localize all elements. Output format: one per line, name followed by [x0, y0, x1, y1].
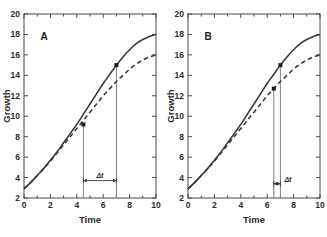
- y-tick-label: 6: [15, 152, 20, 162]
- x-tick-label: 4: [238, 200, 243, 210]
- x-tick-label: 10: [151, 200, 161, 210]
- y-tick-label: 8: [15, 132, 20, 142]
- data-point-marker: [114, 63, 118, 67]
- y-axis-title: Growth: [165, 89, 176, 122]
- x-tick-label: 4: [74, 200, 79, 210]
- delta-t-arrowhead: [274, 182, 277, 186]
- x-tick-label: 8: [127, 200, 132, 210]
- y-tick-label: 2: [179, 193, 184, 203]
- x-tick-label: 2: [212, 200, 217, 210]
- y-axis-title: Growth: [1, 89, 12, 122]
- x-tick-label: 10: [315, 200, 325, 210]
- y-tick-label: 18: [175, 29, 185, 39]
- y-tick-label: 20: [175, 9, 185, 19]
- data-point-marker: [81, 122, 85, 126]
- delta-t-label: Δt: [283, 176, 292, 183]
- growth-curve-figure: 24681012141618200246810TimeGrowthΔtA 246…: [0, 0, 327, 237]
- delta-t-arrowhead: [113, 179, 116, 183]
- delta-t-label: Δt: [95, 172, 104, 179]
- x-tick-label: 0: [22, 200, 27, 210]
- y-tick-label: 14: [11, 70, 21, 80]
- delta-t-arrowhead: [277, 182, 280, 186]
- data-point-marker: [272, 87, 276, 91]
- y-tick-label: 14: [175, 70, 185, 80]
- x-tick-label: 6: [101, 200, 106, 210]
- y-tick-label: 4: [179, 173, 184, 183]
- x-axis-title: Time: [79, 214, 101, 225]
- x-tick-label: 8: [291, 200, 296, 210]
- delta-t-arrowhead: [83, 179, 86, 183]
- panel-b: 24681012141618200246810TimeGrowthΔtB: [164, 0, 327, 237]
- panel-b-plot: 24681012141618200246810TimeGrowthΔtB: [164, 0, 327, 237]
- y-tick-label: 20: [11, 9, 21, 19]
- x-tick-label: 0: [186, 200, 191, 210]
- x-tick-label: 6: [265, 200, 270, 210]
- y-tick-label: 18: [11, 29, 21, 39]
- y-tick-label: 2: [15, 193, 20, 203]
- data-point-marker: [278, 63, 282, 67]
- x-tick-label: 2: [48, 200, 53, 210]
- y-tick-label: 16: [175, 50, 185, 60]
- x-axis-title: Time: [243, 214, 265, 225]
- y-tick-label: 8: [179, 132, 184, 142]
- y-tick-label: 16: [11, 50, 21, 60]
- panel-letter: A: [40, 31, 47, 42]
- panel-a: 24681012141618200246810TimeGrowthΔtA: [0, 0, 163, 237]
- y-tick-label: 6: [179, 152, 184, 162]
- y-tick-label: 4: [15, 173, 20, 183]
- panel-letter: B: [204, 31, 211, 42]
- panel-a-plot: 24681012141618200246810TimeGrowthΔtA: [0, 0, 163, 237]
